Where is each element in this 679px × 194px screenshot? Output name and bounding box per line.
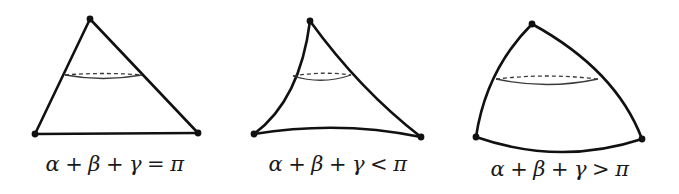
plus-sign: + [546,157,574,181]
plus-sign: + [324,152,352,176]
bottom-edge [35,133,198,134]
alpha-symbol: α [45,152,60,176]
hyperbolic-triangle [251,18,425,141]
plus-sign: + [505,157,533,181]
vertex-top [529,21,536,28]
plus-sign: + [101,152,129,176]
relation-symbol: = [142,152,170,176]
pi-symbol: π [393,152,407,176]
plus-sign: + [60,152,88,176]
vertex-bottom-left [473,134,480,141]
gamma-symbol: γ [129,152,142,176]
left-edge [254,21,310,134]
alpha-symbol: α [490,157,505,181]
alpha-symbol: α [268,152,283,176]
beta-symbol: β [311,152,324,176]
cone-ring-front [293,75,351,80]
right-edge [90,19,198,133]
vertex-bottom-left [251,131,258,138]
euclidean-triangle [32,16,202,138]
cone-ring-back [496,76,598,79]
left-edge [35,19,90,134]
bottom-edge [254,128,421,137]
relation-symbol: > [587,157,615,181]
relation-symbol: < [365,152,393,176]
spherical-triangle [473,21,646,152]
plus-sign: + [283,152,311,176]
vertex-top [307,18,314,25]
pi-symbol: π [615,157,629,181]
bottom-edge [476,137,642,152]
vertex-bottom-left [32,131,39,138]
pi-symbol: π [170,152,184,176]
vertex-bottom-right [195,130,202,137]
gamma-symbol: γ [352,152,365,176]
right-edge [310,21,421,137]
hyperbolic-angle-sum-label: α+β+γ<π [268,152,407,176]
beta-symbol: β [88,152,101,176]
vertex-top [87,16,94,23]
cone-ring-front [65,75,142,79]
vertex-bottom-right [639,136,646,143]
cone-ring-back [293,73,351,76]
cone-ring-front [496,79,598,85]
cone-ring-back [65,74,142,76]
vertex-bottom-right [418,134,425,141]
gamma-symbol: γ [574,157,587,181]
beta-symbol: β [533,157,546,181]
spherical-angle-sum-label: α+β+γ>π [490,157,629,181]
euclidean-angle-sum-label: α+β+γ=π [45,152,184,176]
